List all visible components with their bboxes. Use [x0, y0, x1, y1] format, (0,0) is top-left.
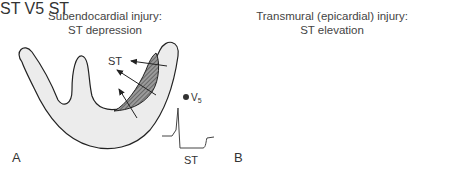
- panel-a-lead-label: V5: [191, 92, 202, 104]
- panel-b-label: B: [234, 150, 243, 165]
- panel-a-vector-label: ST: [108, 55, 122, 67]
- panel-a-ecg-label: ST: [184, 154, 198, 166]
- panel-a-label: A: [12, 150, 21, 165]
- panel-a-ecg-trace: [162, 108, 214, 148]
- panel-a-heart: ST V5 ST: [19, 42, 214, 166]
- diagram-canvas: ST V5 ST: [0, 0, 466, 178]
- panel-a-electrode-dot: [183, 94, 189, 100]
